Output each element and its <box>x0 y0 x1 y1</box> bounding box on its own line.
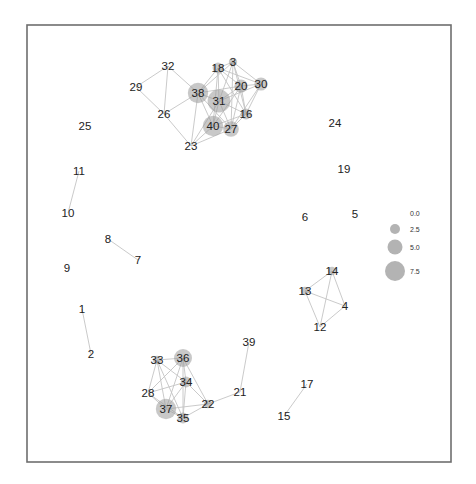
node-25[interactable]: 25 <box>79 120 92 132</box>
legend-label: 0.0 <box>410 210 420 217</box>
legend-label: 2.5 <box>410 226 420 233</box>
node-31[interactable]: 31 <box>213 95 226 107</box>
node-27[interactable]: 27 <box>225 123 238 135</box>
legend-size-swatch <box>388 240 403 255</box>
node-26[interactable]: 26 <box>158 108 171 120</box>
node-30[interactable]: 30 <box>255 78 268 90</box>
legend-label: 5.0 <box>410 244 420 251</box>
node-13[interactable]: 13 <box>299 285 312 297</box>
node-label-layer: 3229263818320303116402723252419111065879… <box>62 56 359 424</box>
node-19[interactable]: 19 <box>338 163 351 175</box>
node-38[interactable]: 38 <box>192 87 205 99</box>
legend-label: 7.5 <box>410 268 420 275</box>
node-15[interactable]: 15 <box>278 410 291 422</box>
node-10[interactable]: 10 <box>62 207 75 219</box>
node-29[interactable]: 29 <box>130 81 143 93</box>
edge-32-26 <box>164 66 168 114</box>
node-18[interactable]: 18 <box>212 62 225 74</box>
node-2[interactable]: 2 <box>88 348 94 360</box>
legend-size-swatch <box>385 261 405 281</box>
node-5[interactable]: 5 <box>352 208 358 220</box>
network-graph: 3229263818320303116402723252419111065879… <box>0 0 476 484</box>
node-3[interactable]: 3 <box>230 56 236 68</box>
node-34[interactable]: 34 <box>180 376 193 388</box>
edge-39-21 <box>240 342 249 392</box>
node-17[interactable]: 17 <box>301 378 314 390</box>
node-22[interactable]: 22 <box>202 398 215 410</box>
edge-8-7 <box>108 239 138 260</box>
node-39[interactable]: 39 <box>243 336 256 348</box>
node-4[interactable]: 4 <box>342 300 349 312</box>
size-legend: 0.02.55.07.5 <box>385 210 420 282</box>
node-24[interactable]: 24 <box>329 117 342 129</box>
node-8[interactable]: 8 <box>105 233 111 245</box>
node-35[interactable]: 35 <box>177 412 190 424</box>
node-36[interactable]: 36 <box>177 352 190 364</box>
node-9[interactable]: 9 <box>64 262 70 274</box>
node-12[interactable]: 12 <box>314 321 327 333</box>
node-1[interactable]: 1 <box>79 303 85 315</box>
node-40[interactable]: 40 <box>207 120 220 132</box>
node-21[interactable]: 21 <box>234 386 247 398</box>
node-16[interactable]: 16 <box>240 108 253 120</box>
node-11[interactable]: 11 <box>73 165 85 177</box>
legend-size-swatch <box>390 224 400 234</box>
node-14[interactable]: 14 <box>326 265 339 277</box>
node-32[interactable]: 32 <box>162 60 175 72</box>
node-6[interactable]: 6 <box>302 211 308 223</box>
node-23[interactable]: 23 <box>185 140 198 152</box>
node-28[interactable]: 28 <box>142 387 155 399</box>
node-33[interactable]: 33 <box>151 354 164 366</box>
node-20[interactable]: 20 <box>235 80 248 92</box>
node-37[interactable]: 37 <box>160 403 173 415</box>
node-7[interactable]: 7 <box>135 254 141 266</box>
